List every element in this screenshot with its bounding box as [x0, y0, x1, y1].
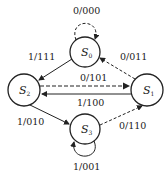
label-s2-s3: 1/010 — [17, 116, 44, 127]
state-s2: S2 — [8, 74, 40, 106]
label-s0-s2: 1/111 — [28, 51, 55, 62]
transition-s0-s2 — [39, 59, 72, 80]
label-s3-s3: 1/001 — [73, 161, 100, 172]
state-s1: S1 — [131, 74, 163, 106]
label-s1-s0: 0/011 — [120, 51, 147, 62]
svg-text:S0: S0 — [81, 46, 93, 59]
transition-s3-s3 — [74, 141, 96, 156]
svg-text:S2: S2 — [19, 84, 31, 97]
state-s3: S3 — [70, 114, 100, 144]
label-s2-s1: 0/101 — [80, 72, 107, 83]
svg-text:S1: S1 — [143, 84, 154, 97]
label-s3-s1: 0/110 — [119, 120, 146, 131]
state-diagram: S0 S2 S1 S3 0/000 1/111 0/011 0/101 1/10… — [0, 0, 168, 175]
svg-text:S3: S3 — [81, 123, 93, 136]
label-s0-s0: 0/000 — [73, 5, 100, 16]
state-s0: S0 — [70, 37, 100, 67]
label-s1-s2: 1/100 — [77, 97, 104, 108]
